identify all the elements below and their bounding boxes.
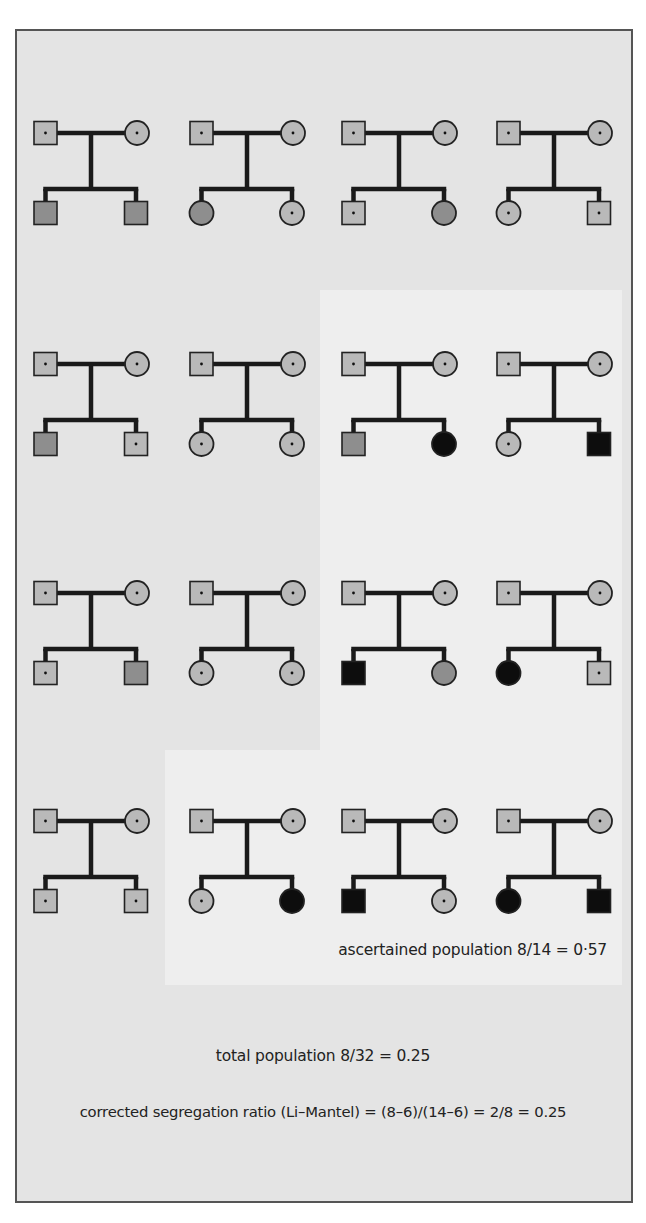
child-male-carrier-icon <box>342 202 365 225</box>
child-male-unaffected-icon <box>34 433 57 456</box>
father-male-carrier-icon <box>342 810 365 833</box>
mother-female-carrier-icon <box>588 121 612 145</box>
carrier-dot-icon <box>443 900 446 903</box>
pedigree-family <box>342 809 457 913</box>
mother-female-carrier-icon <box>433 352 457 376</box>
father-male-carrier-icon <box>190 810 213 833</box>
carrier-dot-icon <box>352 132 355 135</box>
mother-female-carrier-icon <box>281 121 305 145</box>
carrier-dot-icon <box>444 592 447 595</box>
carrier-dot-icon <box>44 363 47 366</box>
child-male-affected-icon <box>342 890 365 913</box>
mother-female-carrier-icon <box>125 352 149 376</box>
carrier-dot-icon <box>136 592 139 595</box>
child-male-unaffected-icon <box>34 202 57 225</box>
carrier-dot-icon <box>507 592 510 595</box>
child-male-carrier-icon <box>34 890 57 913</box>
caption-corrected: corrected segregation ratio (Li–Mantel) … <box>0 1103 646 1120</box>
father-male-carrier-icon <box>190 122 213 145</box>
pedigree-family <box>34 352 149 456</box>
father-male-carrier-icon <box>190 353 213 376</box>
carrier-dot-icon <box>136 363 139 366</box>
child-male-unaffected-icon <box>342 433 365 456</box>
carrier-dot-icon <box>291 672 294 675</box>
caption-ascertained: ascertained population 8/14 = 0·57 <box>338 941 607 959</box>
child-male-carrier-icon <box>588 662 611 685</box>
carrier-dot-icon <box>200 363 203 366</box>
carrier-dot-icon <box>292 132 295 135</box>
mother-female-carrier-icon <box>125 809 149 833</box>
father-male-carrier-icon <box>342 122 365 145</box>
child-male-affected-icon <box>588 890 611 913</box>
carrier-dot-icon <box>200 672 203 675</box>
carrier-dot-icon <box>200 443 203 446</box>
mother-female-carrier-icon <box>281 809 305 833</box>
carrier-dot-icon <box>599 363 602 366</box>
carrier-dot-icon <box>444 132 447 135</box>
child-female-unaffected-icon <box>432 661 456 685</box>
pedigree-family <box>190 809 306 913</box>
pedigree-family <box>497 121 613 225</box>
father-male-carrier-icon <box>34 353 57 376</box>
father-male-carrier-icon <box>34 582 57 605</box>
father-male-carrier-icon <box>34 122 57 145</box>
carrier-dot-icon <box>507 132 510 135</box>
father-male-carrier-icon <box>342 353 365 376</box>
child-female-carrier-icon <box>432 889 456 913</box>
pedigree-family <box>497 352 613 456</box>
carrier-dot-icon <box>507 820 510 823</box>
mother-female-carrier-icon <box>588 809 612 833</box>
father-male-carrier-icon <box>497 353 520 376</box>
child-female-carrier-icon <box>190 432 214 456</box>
carrier-dot-icon <box>200 900 203 903</box>
mother-female-carrier-icon <box>588 581 612 605</box>
child-female-carrier-icon <box>280 661 304 685</box>
mother-female-carrier-icon <box>433 809 457 833</box>
child-female-carrier-icon <box>497 201 521 225</box>
carrier-dot-icon <box>352 820 355 823</box>
father-male-carrier-icon <box>497 122 520 145</box>
carrier-dot-icon <box>444 363 447 366</box>
carrier-dot-icon <box>444 820 447 823</box>
mother-female-carrier-icon <box>433 581 457 605</box>
caption-total: total population 8/32 = 0.25 <box>0 1047 646 1065</box>
child-male-carrier-icon <box>588 202 611 225</box>
child-female-unaffected-icon <box>190 201 214 225</box>
father-male-carrier-icon <box>34 810 57 833</box>
child-male-unaffected-icon <box>125 202 148 225</box>
child-female-carrier-icon <box>497 432 521 456</box>
child-female-unaffected-icon <box>432 201 456 225</box>
mother-female-carrier-icon <box>281 581 305 605</box>
pedigree-family <box>34 121 149 225</box>
carrier-dot-icon <box>598 672 601 675</box>
pedigree-family <box>190 121 306 225</box>
carrier-dot-icon <box>599 132 602 135</box>
carrier-dot-icon <box>507 212 510 215</box>
pedigree-family <box>342 352 457 456</box>
father-male-carrier-icon <box>497 810 520 833</box>
carrier-dot-icon <box>44 592 47 595</box>
father-male-carrier-icon <box>342 582 365 605</box>
carrier-dot-icon <box>599 592 602 595</box>
carrier-dot-icon <box>200 820 203 823</box>
child-female-carrier-icon <box>190 889 214 913</box>
carrier-dot-icon <box>352 212 355 215</box>
carrier-dot-icon <box>135 443 138 446</box>
carrier-dot-icon <box>507 363 510 366</box>
child-male-carrier-icon <box>34 662 57 685</box>
pedigree-family <box>190 581 306 685</box>
carrier-dot-icon <box>44 672 47 675</box>
child-male-affected-icon <box>342 662 365 685</box>
mother-female-carrier-icon <box>281 352 305 376</box>
pedigree-grid <box>0 0 646 1223</box>
pedigree-family <box>342 581 457 685</box>
carrier-dot-icon <box>292 363 295 366</box>
pedigree-family <box>497 581 613 685</box>
carrier-dot-icon <box>599 820 602 823</box>
carrier-dot-icon <box>44 900 47 903</box>
child-female-affected-icon <box>280 889 304 913</box>
child-female-carrier-icon <box>280 432 304 456</box>
child-female-carrier-icon <box>190 661 214 685</box>
child-male-carrier-icon <box>125 433 148 456</box>
carrier-dot-icon <box>598 212 601 215</box>
